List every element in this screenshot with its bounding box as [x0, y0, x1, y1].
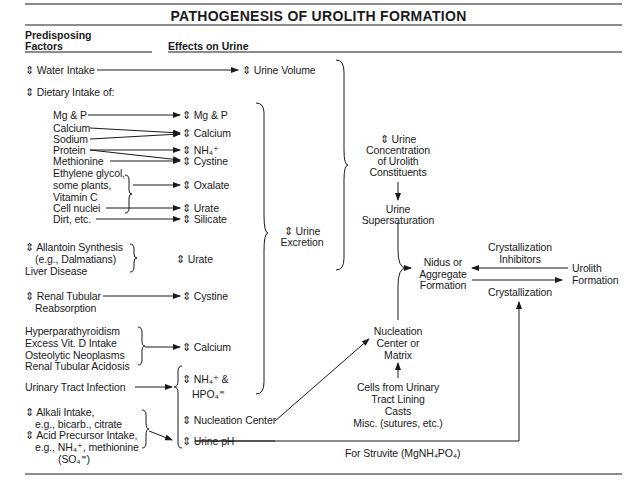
outcome-cells-3: Casts [345, 405, 451, 417]
effect-mg-p: ⇕ Mg & P [182, 109, 228, 121]
factor-mg-p: Mg & P [53, 109, 87, 121]
factor-acid-1: ⇕ Acid Precursor Intake, [25, 429, 137, 441]
outcome-struvite: For Struvite (MgNH₄PO₄) [345, 447, 460, 459]
effect-oxalate: ⇕ Oxalate [182, 179, 229, 191]
factor-dietary-intake: ⇕ Dietary Intake of: [25, 86, 114, 98]
outcome-inhibitors-1: Crystallization [478, 241, 562, 253]
factor-allantoin-3: Liver Disease [25, 265, 87, 277]
outcome-matrix-2: Center or [366, 337, 430, 349]
outcome-inhibitors-2: Inhibitors [478, 253, 562, 265]
factor-acid-3: (SO₄⁼) [58, 453, 90, 465]
factor-hyper-4: Renal Tubular Acidosis [25, 360, 130, 372]
factor-ethylene-1: Ethylene glycol, [53, 167, 125, 179]
factor-water-intake: ⇕ Water Intake [25, 64, 95, 76]
effect-cystine-2: ⇕ Cystine [182, 290, 228, 302]
outcome-urolith-1: Urolith [572, 262, 602, 274]
effect-silicate: ⇕ Silicate [182, 213, 227, 225]
effect-urine-ph: ⇕ Urine pH [182, 435, 234, 447]
effect-nucleation-center: ⇕ Nucleation Center [182, 414, 276, 426]
factor-renal-1: ⇕ Renal Tubular [25, 290, 101, 302]
outcome-cells-2: Tract Lining [345, 393, 451, 405]
outcome-matrix-1: Nucleation [366, 325, 430, 337]
outcome-concentration-4: Constituents [355, 166, 441, 178]
outcome-cells-4: Misc. (sutures, etc.) [345, 417, 451, 429]
effect-calcium-2: ⇕ Calcium [182, 341, 231, 353]
outcome-nidus-1: Nidus or [415, 256, 471, 268]
outcome-urine-excretion-2: Excretion [272, 236, 332, 248]
factor-hyper-1: Hyperparathyroidism [25, 325, 120, 337]
factor-hyper-2: Excess Vit. D Intake [25, 337, 117, 349]
header-factors: Factors [25, 40, 63, 52]
factor-alkali-1: ⇕ Alkali Intake, [25, 406, 94, 418]
header-effects: Effects on Urine [168, 40, 249, 52]
effect-urate-2: ⇕ Urate [176, 253, 213, 265]
outcome-cells-1: Cells from Urinary [345, 381, 451, 393]
effect-cystine: ⇕ Cystine [182, 155, 228, 167]
effect-nh4-hpo4-1: ⇕ NH₄⁺ & [182, 373, 229, 385]
factor-allantoin-2: (e.g., Dalmatians) [35, 253, 116, 265]
factor-dirt: Dirt, etc. [53, 213, 91, 225]
factor-uti: Urinary Tract Infection [25, 381, 125, 393]
factor-ethylene-2: some plants, [53, 179, 111, 191]
factor-acid-2: e.g., NH₄⁺, methionine [35, 441, 139, 453]
factor-allantoin-1: ⇕ Allantoin Synthesis [25, 241, 123, 253]
diagram-title: PATHOGENESIS OF UROLITH FORMATION [0, 8, 637, 24]
effect-calcium: ⇕ Calcium [182, 127, 231, 139]
outcome-urolith-2: Formation [572, 274, 618, 286]
outcome-matrix-3: Matrix [366, 349, 430, 361]
factor-renal-2: Reabsorption [35, 302, 96, 314]
effect-urine-volume: ⇕ Urine Volume [242, 64, 316, 76]
effect-nh4-hpo4-2: HPO₄⁼ [192, 388, 225, 400]
outcome-supersaturation-2: Supersaturation [355, 214, 441, 226]
factor-methionine: Methionine [53, 155, 103, 167]
outcome-nidus-3: Formation [415, 279, 471, 291]
outcome-crystallization: Crystallization [478, 286, 562, 298]
